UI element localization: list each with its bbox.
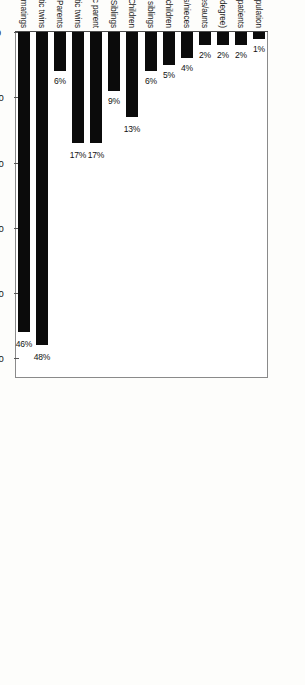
bar	[181, 32, 193, 58]
bar-value-label: 46%	[16, 340, 32, 350]
bar-item: 2%	[199, 32, 211, 378]
bar-item: 1%	[253, 32, 265, 378]
tick-label: 20	[0, 157, 4, 168]
group-brackets: Second-degree relativesFirst-degree rela…	[15, 0, 268, 31]
tick-label: 40	[0, 288, 4, 299]
bar-series: 1%2%2%2%4%5%6%13%9%17%17%6%48%46%	[15, 32, 268, 378]
bar-item: 2%	[235, 32, 247, 378]
bar	[163, 32, 175, 65]
bar-value-label: 2%	[199, 50, 211, 60]
bar-value-label: 48%	[34, 353, 50, 363]
bar-item: 6%	[54, 32, 66, 378]
bar	[18, 32, 30, 332]
bar-value-label: 17%	[70, 150, 86, 160]
chart-figure: 01020304050 1%2%2%2%4%5%6%13%9%17%17%6%4…	[0, 0, 305, 685]
bar-item: 2%	[217, 32, 229, 378]
bar	[108, 32, 120, 91]
bar-item: 13%	[126, 32, 138, 378]
bar-value-label: 6%	[145, 76, 157, 86]
bar-item: 17%	[90, 32, 102, 378]
bar	[145, 32, 157, 71]
bar	[217, 32, 229, 45]
bar-item: 5%	[163, 32, 175, 378]
rotated-figure-container: 01020304050 1%2%2%2%4%5%6%13%9%17%17%6%4…	[0, 0, 305, 685]
bar-item: 6%	[145, 32, 157, 378]
tick-label: 10	[0, 92, 4, 103]
bar-item: 46%	[18, 32, 30, 378]
bar	[199, 32, 211, 45]
bar	[253, 32, 265, 39]
bar	[235, 32, 247, 45]
bar-value-label: 2%	[217, 50, 229, 60]
tick-label: 50	[0, 353, 4, 364]
bar	[36, 32, 48, 345]
bar	[72, 32, 84, 143]
bar-value-label: 6%	[54, 76, 66, 86]
bar-value-label: 17%	[88, 150, 104, 160]
bar-value-label: 1%	[253, 43, 265, 53]
bar	[90, 32, 102, 143]
bar-value-label: 2%	[235, 50, 247, 60]
bar-value-label: 9%	[108, 96, 120, 106]
bar	[54, 32, 66, 71]
bar-value-label: 5%	[163, 70, 175, 80]
bar-value-label: 13%	[124, 124, 140, 134]
bar-item: 4%	[181, 32, 193, 378]
bar-item: 17%	[72, 32, 84, 378]
tick-label: 0	[0, 27, 1, 38]
bar-value-label: 4%	[181, 63, 193, 73]
bar-item: 48%	[36, 32, 48, 378]
tick-label: 30	[0, 222, 4, 233]
bar	[126, 32, 138, 117]
bar-item: 9%	[108, 32, 120, 378]
